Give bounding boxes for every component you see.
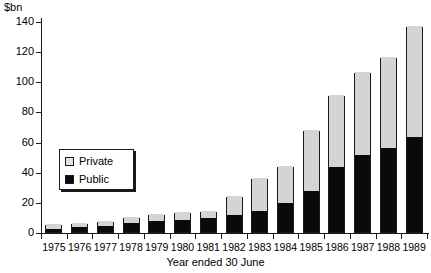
bar-segment-public: [201, 218, 216, 232]
x-axis-tick-label-1980: 1980: [170, 241, 196, 253]
x-axis-line: [41, 233, 429, 234]
x-axis-tick-label-1982: 1982: [221, 241, 247, 253]
x-axis-tick: [376, 234, 377, 239]
x-axis-tick-label-1984: 1984: [273, 241, 299, 253]
legend-swatch-private-icon: [65, 157, 74, 166]
chart-legend: Private Public: [59, 149, 134, 190]
bar-segment-public: [124, 223, 139, 232]
x-axis-tick-label-1977: 1977: [92, 241, 118, 253]
x-axis-tick: [67, 234, 68, 239]
x-axis-tick-label-1975: 1975: [41, 241, 67, 253]
x-axis-tick-label-1989: 1989: [401, 241, 427, 253]
x-axis-tick: [273, 234, 274, 239]
bar-1980: [174, 213, 191, 233]
bar-1975: [45, 225, 62, 233]
bar-segment-public: [304, 191, 319, 232]
bar-segment-private: [355, 72, 370, 155]
bar-segment-private: [407, 26, 422, 138]
x-axis-tick-label-1978: 1978: [118, 241, 144, 253]
bar-segment-public: [278, 203, 293, 232]
bar-segment-private: [175, 212, 190, 220]
bar-segment-public: [381, 148, 396, 232]
plot-area: [41, 18, 427, 233]
bar-1985: [303, 131, 320, 233]
x-axis-tick-label-1985: 1985: [298, 241, 324, 253]
bar-segment-public: [227, 215, 242, 232]
y-axis-tick-label: 40: [0, 167, 34, 178]
bar-segment-private: [329, 95, 344, 167]
legend-item-public: Public: [65, 171, 109, 187]
bar-segment-public: [149, 221, 164, 232]
bar-segment-public: [252, 211, 267, 232]
legend-swatch-public-icon: [65, 175, 74, 184]
bar-segment-private: [201, 211, 216, 219]
legend-label-private: Private: [79, 155, 113, 167]
bar-1984: [277, 167, 294, 233]
x-axis-tick: [427, 234, 428, 239]
x-axis-tick: [118, 234, 119, 239]
bar-segment-private: [227, 196, 242, 216]
bar-1987: [354, 73, 371, 233]
x-axis-tick: [195, 234, 196, 239]
x-axis-tick: [401, 234, 402, 239]
bar-1983: [251, 179, 268, 233]
bar-chart: $bn 020406080100120140 19751976197719781…: [0, 0, 431, 273]
x-axis-title: Year ended 30 June: [0, 256, 431, 269]
x-axis-tick: [92, 234, 93, 239]
y-axis-tick-label: 100: [0, 76, 34, 87]
x-axis-tick-label-1976: 1976: [67, 241, 93, 253]
x-axis-tick: [298, 234, 299, 239]
bar-1989: [406, 27, 423, 233]
bar-segment-public: [407, 137, 422, 232]
y-axis-tick-label: 60: [0, 137, 34, 148]
bar-1976: [71, 224, 88, 233]
bar-segment-private: [252, 178, 267, 211]
y-axis-tick-label: 120: [0, 46, 34, 57]
bar-segment-private: [149, 214, 164, 222]
bar-1977: [97, 222, 114, 233]
bar-1986: [328, 96, 345, 233]
bar-segment-public: [175, 220, 190, 232]
bar-1988: [380, 58, 397, 233]
x-axis-tick: [324, 234, 325, 239]
bar-segment-private: [304, 130, 319, 192]
bar-1982: [226, 197, 243, 233]
legend-label-public: Public: [79, 173, 109, 185]
bar-segment-public: [329, 167, 344, 232]
x-axis-tick-label-1979: 1979: [144, 241, 170, 253]
bar-1978: [123, 218, 140, 233]
bar-segment-public: [355, 155, 370, 232]
bar-segment-private: [381, 57, 396, 147]
x-axis-tick: [221, 234, 222, 239]
bar-segment-public: [46, 229, 61, 232]
y-axis-tick-label: 80: [0, 106, 34, 117]
x-axis-tick-label-1987: 1987: [350, 241, 376, 253]
x-axis-tick: [350, 234, 351, 239]
x-axis-tick-label-1988: 1988: [376, 241, 402, 253]
bar-segment-private: [278, 166, 293, 204]
bar-1979: [148, 215, 165, 233]
bar-1981: [200, 212, 217, 233]
y-axis-unit-label: $bn: [4, 1, 22, 13]
y-axis-tick-label: 140: [0, 16, 34, 27]
bar-segment-public: [98, 226, 113, 232]
x-axis-tick-label-1981: 1981: [195, 241, 221, 253]
legend-item-private: Private: [65, 153, 113, 169]
y-axis-tick-label: 0: [0, 227, 34, 238]
x-axis-tick: [247, 234, 248, 239]
x-axis-tick: [144, 234, 145, 239]
y-axis-tick-label: 20: [0, 197, 34, 208]
x-axis-tick-label-1986: 1986: [324, 241, 350, 253]
bar-segment-public: [72, 227, 87, 232]
x-axis-tick: [170, 234, 171, 239]
x-axis-tick: [41, 234, 42, 239]
x-axis-tick-label-1983: 1983: [247, 241, 273, 253]
